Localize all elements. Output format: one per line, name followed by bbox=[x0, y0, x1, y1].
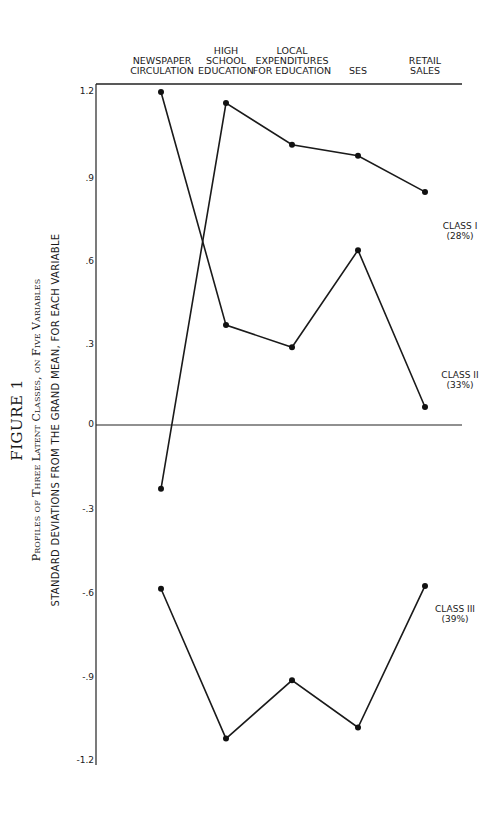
series-layer bbox=[158, 89, 428, 742]
data-point bbox=[158, 486, 164, 492]
data-point bbox=[355, 724, 361, 730]
data-point bbox=[422, 583, 428, 589]
data-point bbox=[289, 677, 295, 683]
data-point bbox=[289, 142, 295, 148]
data-point bbox=[289, 344, 295, 350]
data-point bbox=[422, 189, 428, 195]
data-point bbox=[223, 736, 229, 742]
data-point bbox=[355, 153, 361, 159]
data-point bbox=[158, 89, 164, 95]
class-1-label: CLASS I (28%) bbox=[432, 221, 488, 241]
data-point bbox=[355, 247, 361, 253]
data-point bbox=[158, 586, 164, 592]
series-line-class-1 bbox=[161, 103, 425, 489]
data-point bbox=[223, 100, 229, 106]
series-line-class-3 bbox=[161, 586, 425, 739]
data-point bbox=[223, 322, 229, 328]
data-point bbox=[422, 404, 428, 410]
class-2-label: CLASS II (33%) bbox=[432, 370, 488, 390]
line-chart bbox=[0, 0, 501, 840]
class-3-label: CLASS III (39%) bbox=[422, 604, 488, 624]
